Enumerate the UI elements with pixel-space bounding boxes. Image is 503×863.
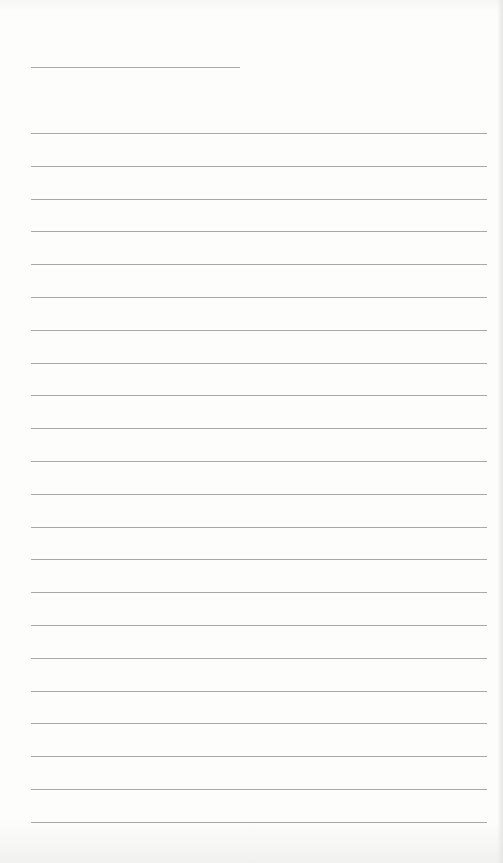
ruled-line bbox=[31, 395, 487, 396]
ruled-line bbox=[31, 264, 487, 265]
ruled-line bbox=[31, 822, 487, 823]
ruled-line bbox=[31, 166, 487, 167]
ruled-line bbox=[31, 789, 487, 790]
lined-page bbox=[0, 0, 503, 863]
ruled-line bbox=[31, 658, 487, 659]
ruled-line bbox=[31, 592, 487, 593]
title-write-line bbox=[31, 67, 240, 68]
ruled-line bbox=[31, 199, 487, 200]
ruled-line bbox=[31, 133, 487, 134]
ruled-line bbox=[31, 330, 487, 331]
ruled-line bbox=[31, 723, 487, 724]
ruled-line bbox=[31, 231, 487, 232]
ruled-line bbox=[31, 625, 487, 626]
ruled-line bbox=[31, 363, 487, 364]
page-edge-shadow bbox=[497, 0, 503, 863]
ruled-line bbox=[31, 691, 487, 692]
ruled-line bbox=[31, 756, 487, 757]
ruled-line bbox=[31, 494, 487, 495]
ruled-line bbox=[31, 461, 487, 462]
ruled-line bbox=[31, 297, 487, 298]
ruled-line bbox=[31, 428, 487, 429]
ruled-line bbox=[31, 559, 487, 560]
ruled-line bbox=[31, 527, 487, 528]
